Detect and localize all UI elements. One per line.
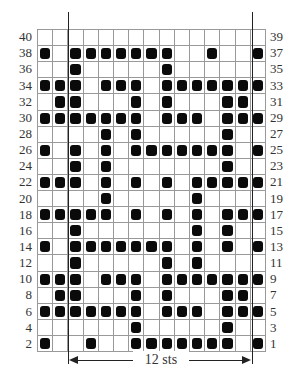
filled-cell (236, 94, 251, 110)
row-label-left: 30 (6, 110, 32, 126)
row-label-right: 33 (270, 78, 300, 94)
filled-cell (84, 207, 99, 223)
empty-cell (205, 320, 220, 336)
filled-cell (160, 62, 175, 78)
filled-cell (84, 304, 99, 320)
empty-cell (236, 239, 251, 255)
empty-cell (84, 94, 99, 110)
filled-cell (99, 159, 114, 175)
filled-cell (99, 191, 114, 207)
empty-cell (84, 159, 99, 175)
row-label-right: 23 (270, 158, 300, 174)
empty-cell (190, 46, 205, 62)
empty-cell (251, 320, 266, 336)
empty-cell (160, 223, 175, 239)
empty-cell (144, 191, 159, 207)
empty-cell (251, 62, 266, 78)
filled-cell (251, 239, 266, 255)
empty-cell (144, 255, 159, 271)
empty-cell (53, 239, 68, 255)
filled-cell (129, 143, 144, 159)
empty-cell (38, 288, 53, 304)
empty-cell (129, 191, 144, 207)
filled-cell (99, 304, 114, 320)
empty-cell (129, 30, 144, 46)
empty-cell (251, 288, 266, 304)
filled-cell (160, 143, 175, 159)
empty-cell (68, 336, 83, 352)
row-label-left: 2 (6, 336, 32, 352)
filled-cell (129, 46, 144, 62)
row-label-left: 18 (6, 207, 32, 223)
filled-cell (99, 239, 114, 255)
empty-cell (38, 94, 53, 110)
empty-cell (53, 143, 68, 159)
empty-cell (84, 78, 99, 94)
filled-cell (68, 143, 83, 159)
empty-cell (175, 320, 190, 336)
filled-cell (129, 127, 144, 143)
row-label-right: 17 (270, 207, 300, 223)
row-label-left: 14 (6, 239, 32, 255)
empty-cell (38, 255, 53, 271)
filled-cell (99, 175, 114, 191)
filled-cell (190, 304, 205, 320)
row-label-left: 36 (6, 61, 32, 77)
empty-cell (160, 127, 175, 143)
filled-cell (160, 46, 175, 62)
filled-cell (220, 239, 235, 255)
filled-cell (175, 78, 190, 94)
row-label-left: 28 (6, 126, 32, 142)
empty-cell (114, 143, 129, 159)
filled-cell (160, 78, 175, 94)
empty-cell (144, 159, 159, 175)
filled-cell (220, 127, 235, 143)
filled-cell (129, 94, 144, 110)
empty-cell (236, 255, 251, 271)
row-label-left: 6 (6, 304, 32, 320)
filled-cell (251, 272, 266, 288)
arrow-right-icon (242, 356, 251, 364)
filled-cell (84, 239, 99, 255)
empty-cell (53, 127, 68, 143)
row-label-right: 37 (270, 45, 300, 61)
empty-cell (114, 127, 129, 143)
empty-cell (175, 223, 190, 239)
filled-cell (68, 255, 83, 271)
filled-cell (251, 78, 266, 94)
row-label-left: 32 (6, 94, 32, 110)
empty-cell (205, 288, 220, 304)
row-label-right: 9 (270, 271, 300, 287)
repeat-line-left (68, 12, 69, 364)
empty-cell (53, 46, 68, 62)
filled-cell (190, 175, 205, 191)
empty-cell (99, 255, 114, 271)
empty-cell (175, 62, 190, 78)
empty-cell (175, 255, 190, 271)
empty-cell (251, 223, 266, 239)
empty-cell (99, 62, 114, 78)
empty-cell (84, 320, 99, 336)
filled-cell (53, 94, 68, 110)
filled-cell (160, 207, 175, 223)
empty-cell (144, 175, 159, 191)
empty-cell (205, 207, 220, 223)
row-label-right: 19 (270, 191, 300, 207)
filled-cell (144, 46, 159, 62)
filled-cell (38, 239, 53, 255)
empty-cell (68, 191, 83, 207)
filled-cell (53, 78, 68, 94)
empty-cell (84, 30, 99, 46)
filled-cell (190, 223, 205, 239)
row-label-right: 5 (270, 304, 300, 320)
empty-cell (99, 320, 114, 336)
filled-cell (220, 143, 235, 159)
filled-cell (205, 336, 220, 352)
filled-cell (251, 175, 266, 191)
filled-cell (160, 111, 175, 127)
filled-cell (251, 143, 266, 159)
filled-cell (236, 78, 251, 94)
empty-cell (129, 255, 144, 271)
filled-cell (99, 78, 114, 94)
empty-cell (84, 272, 99, 288)
